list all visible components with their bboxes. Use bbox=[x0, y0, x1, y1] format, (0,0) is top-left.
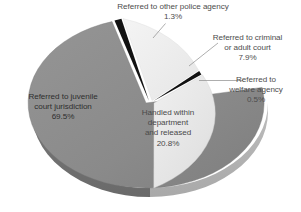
slice-label-text: Referred to other police agency bbox=[104, 2, 242, 12]
pie-chart-figure: Referred to other police agency 1.3% Ref… bbox=[0, 0, 301, 212]
slice-label-text: Referred to criminal bbox=[196, 33, 299, 43]
slice-label-value: 1.3% bbox=[104, 12, 242, 22]
slice-label-value: 69.5% bbox=[9, 112, 117, 122]
slice-label-handled-within-department: Handled within department and released 2… bbox=[120, 108, 216, 149]
slice-label-value: 7.9% bbox=[196, 53, 299, 63]
slice-label-welfare-agency: Referred to welfare agency 0.5% bbox=[214, 75, 298, 106]
slice-label-value: 0.5% bbox=[214, 95, 298, 105]
slice-label-criminal-adult-court: Referred to criminal or adult court 7.9% bbox=[196, 33, 299, 64]
slice-label-text-2: welfare agency bbox=[214, 85, 298, 95]
slice-label-text-2: or adult court bbox=[196, 43, 299, 53]
slice-label-juvenile-court: Referred to juvenile court jurisdiction … bbox=[9, 92, 117, 123]
slice-label-other-police-agency: Referred to other police agency 1.3% bbox=[104, 2, 242, 22]
slice-label-text-2: court jurisdiction bbox=[9, 102, 117, 112]
slice-label-text-2: department bbox=[120, 118, 216, 128]
slice-label-text: Handled within bbox=[120, 108, 216, 118]
slice-label-text: Referred to bbox=[214, 75, 298, 85]
slice-label-text: Referred to juvenile bbox=[9, 92, 117, 102]
slice-label-value: 20.8% bbox=[120, 139, 216, 149]
slice-label-text-3: and released bbox=[120, 128, 216, 138]
